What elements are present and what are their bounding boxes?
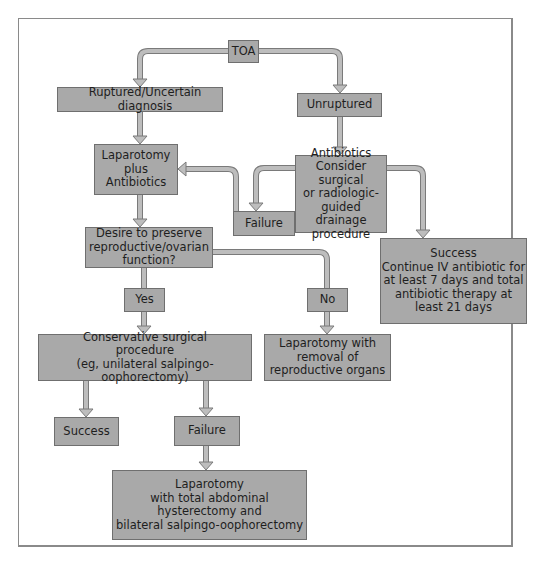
- arrow-antibiotics-to-success: [386, 168, 430, 238]
- node-ruptured-uncertain: Ruptured/Uncertain diagnosis: [57, 87, 223, 112]
- node-conservative-surgical: Conservative surgical procedure (eg, uni…: [38, 334, 252, 381]
- node-success-bottom: Success: [54, 417, 119, 446]
- node-yes: Yes: [124, 288, 165, 312]
- arrow-conservative-to-failure: [199, 380, 213, 416]
- node-unruptured: Unruptured: [297, 93, 382, 117]
- arrow-no-to-removal: [320, 312, 334, 334]
- node-failure-right: Failure: [233, 211, 295, 236]
- node-no: No: [307, 288, 348, 312]
- arrow-toa-to-ruptured: [133, 51, 228, 87]
- arrow-ruptured-to-laparotomy: [133, 111, 147, 144]
- node-laparotomy-plus-antibiotics: Laparotomy plus Antibiotics: [94, 144, 178, 195]
- node-antibiotics-drainage: Antibiotics Consider surgical or radiolo…: [295, 155, 387, 233]
- arrow-failure-to-total: [199, 445, 213, 470]
- arrow-conservative-to-success: [79, 380, 93, 417]
- node-laparotomy-removal: Laparotomy with removal of reproductive …: [264, 334, 391, 381]
- node-toa: TOA: [228, 40, 259, 63]
- arrow-failure-to-laparotomy: [178, 162, 236, 211]
- node-failure-bottom: Failure: [174, 416, 240, 446]
- arrow-toa-to-unruptured: [258, 51, 347, 93]
- node-success-continue-iv: Success Continue IV antibiotic for at le…: [380, 238, 527, 324]
- node-desire-to-preserve: Desire to preserve reproductive/ovarian …: [85, 227, 213, 268]
- arrow-antibiotics-to-failure: [249, 168, 295, 211]
- arrow-laparotomy-to-desire: [133, 194, 147, 227]
- node-laparotomy-total-hysterectomy: Laparotomy with total abdominal hysterec…: [112, 470, 307, 540]
- arrow-desire-to-no: [212, 252, 327, 288]
